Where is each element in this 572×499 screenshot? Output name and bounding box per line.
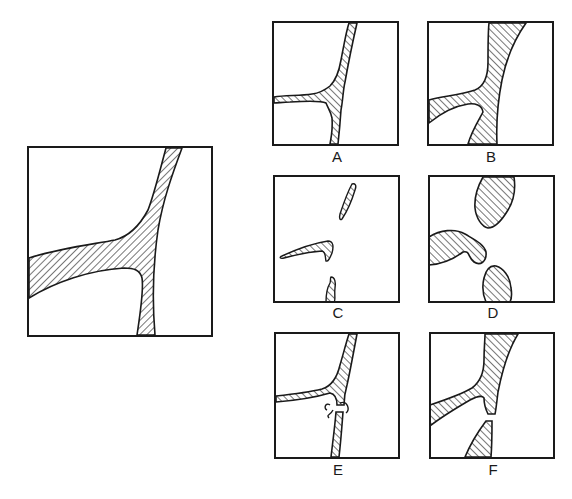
option-a-shape <box>274 23 357 144</box>
option-c-label: C <box>323 304 353 321</box>
option-d-fragment-2 <box>429 230 486 265</box>
option-f-panel <box>430 333 554 458</box>
reference-panel <box>28 147 212 336</box>
option-b-shape <box>429 23 526 144</box>
option-e-shape-upper <box>276 334 357 405</box>
option-b-label: B <box>476 148 506 165</box>
option-e-label: E <box>323 461 353 478</box>
option-e-panel <box>275 333 399 458</box>
option-a-label: A <box>322 148 352 165</box>
option-d-panel <box>429 176 554 302</box>
option-f-shape-lower <box>465 421 492 457</box>
option-d-label: D <box>478 304 508 321</box>
option-c-fragment-3 <box>326 277 335 302</box>
figure-canvas <box>0 0 572 499</box>
option-a-panel <box>273 22 398 145</box>
option-c-fragment-2 <box>280 241 333 261</box>
option-f-label: F <box>478 461 508 478</box>
option-d-fragment-3 <box>483 266 511 302</box>
reference-shape <box>29 148 182 335</box>
option-c-panel <box>274 176 399 302</box>
option-d-fragment-1 <box>475 177 515 228</box>
option-e-shape-lower <box>331 412 343 457</box>
option-c-fragment-1 <box>340 184 356 220</box>
option-b-panel <box>428 22 553 145</box>
option-f-shape-upper <box>430 334 518 426</box>
option-c-box <box>274 176 399 302</box>
